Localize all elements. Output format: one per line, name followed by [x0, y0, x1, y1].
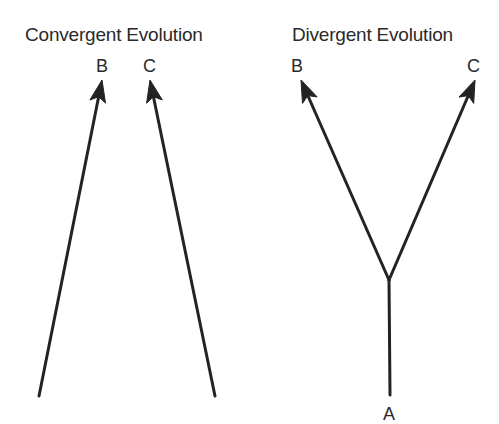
divergent-arrow-to-b-shaft: [306, 91, 389, 280]
divergent-arrow-to-c-shaft: [389, 91, 470, 280]
convergent-arrow-to-c-shaft: [152, 92, 215, 396]
divergent-stem-shaft: [389, 280, 390, 395]
convergent-arrow-to-b-shaft: [39, 92, 100, 396]
